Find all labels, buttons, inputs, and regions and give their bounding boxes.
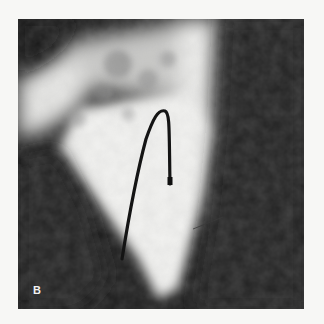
xray-image	[18, 19, 304, 309]
panel-label: B	[33, 285, 41, 296]
xray-image-frame: B	[18, 19, 304, 309]
